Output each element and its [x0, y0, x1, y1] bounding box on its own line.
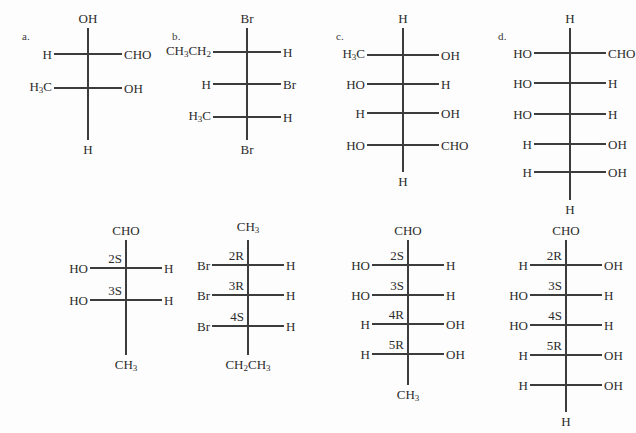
stereocenter-descriptor: 3R	[229, 279, 246, 292]
substituent-right: H	[283, 46, 292, 59]
terminal-group-top: CH3	[237, 220, 260, 237]
stereocenter-descriptor: 2S	[390, 249, 406, 262]
stereocenter-descriptor: 5R	[547, 339, 564, 352]
substituent-right: CHO	[124, 48, 151, 61]
vertical-backbone-bond	[407, 240, 409, 385]
terminal-group-top: Br	[241, 12, 254, 25]
substituent-left: H	[356, 107, 365, 120]
horizontal-bond-right	[566, 384, 602, 386]
substituent-right: OH	[441, 107, 460, 120]
stereocenter-descriptor: 4R	[389, 308, 406, 321]
stereocenter-descriptor: 3S	[108, 284, 124, 297]
horizontal-bond-right	[248, 294, 284, 296]
horizontal-bond-left	[530, 294, 566, 296]
horizontal-bond-left	[530, 354, 566, 356]
substituent-right: OH	[604, 349, 623, 362]
horizontal-bond-right	[408, 353, 444, 355]
horizontal-bond-left	[54, 53, 88, 55]
horizontal-bond-right	[570, 113, 606, 115]
horizontal-bond-left	[212, 294, 248, 296]
horizontal-bond-left	[530, 384, 566, 386]
horizontal-bond-right	[403, 144, 439, 146]
horizontal-bond-right	[88, 87, 122, 89]
horizontal-bond-left	[213, 83, 247, 85]
substituent-left: H	[43, 48, 52, 61]
horizontal-bond-left	[367, 112, 403, 114]
substituent-left: HO	[346, 78, 365, 91]
substituent-left: HO	[69, 294, 88, 307]
substituent-right: OH	[446, 318, 465, 331]
substituent-left: H	[519, 259, 528, 272]
horizontal-bond-left	[534, 143, 570, 145]
substituent-left: H	[523, 138, 532, 151]
horizontal-bond-left	[534, 113, 570, 115]
vertical-backbone-bond	[125, 240, 127, 355]
structure-letter-label: b.	[172, 30, 181, 42]
stereocenter-descriptor: 2R	[547, 249, 564, 262]
horizontal-bond-left	[534, 52, 570, 54]
horizontal-bond-left	[530, 264, 566, 266]
horizontal-bond-right	[248, 264, 284, 266]
stereocenter-descriptor: 4S	[548, 309, 564, 322]
horizontal-bond-left	[530, 324, 566, 326]
stereocenter-descriptor: 2S	[108, 252, 124, 265]
terminal-group-bottom: H	[83, 143, 92, 156]
horizontal-bond-left	[90, 267, 126, 269]
substituent-right: H	[283, 111, 292, 124]
horizontal-bond-right	[403, 54, 439, 56]
substituent-left: Br	[197, 320, 210, 333]
substituent-right: H	[608, 108, 617, 121]
horizontal-bond-left	[372, 353, 408, 355]
horizontal-bond-left	[367, 54, 403, 56]
horizontal-bond-right	[566, 354, 602, 356]
horizontal-bond-right	[88, 53, 122, 55]
structure-letter-label: a.	[22, 30, 30, 42]
substituent-right: OH	[441, 49, 460, 62]
substituent-left: H3C	[342, 47, 365, 64]
horizontal-bond-right	[570, 143, 606, 145]
horizontal-bond-left	[367, 144, 403, 146]
stereocenter-descriptor: 2R	[229, 249, 246, 262]
substituent-left: HO	[346, 139, 365, 152]
vertical-backbone-bond	[247, 240, 249, 355]
substituent-left: HO	[509, 319, 528, 332]
substituent-left: HO	[351, 259, 370, 272]
horizontal-bond-left	[367, 83, 403, 85]
substituent-right: OH	[608, 166, 627, 179]
substituent-right: OH	[446, 348, 465, 361]
substituent-left: HO	[513, 47, 532, 60]
vertical-backbone-bond	[402, 28, 404, 172]
horizontal-bond-left	[372, 264, 408, 266]
horizontal-bond-right	[408, 323, 444, 325]
stereocenter-descriptor: 4S	[230, 310, 246, 323]
horizontal-bond-right	[403, 112, 439, 114]
substituent-right: H	[286, 320, 295, 333]
substituent-left: H	[519, 349, 528, 362]
substituent-right: H	[604, 289, 613, 302]
horizontal-bond-right	[408, 294, 444, 296]
substituent-right: CHO	[441, 139, 468, 152]
stereocenter-descriptor: 3S	[548, 279, 564, 292]
substituent-right: H	[441, 78, 450, 91]
horizontal-bond-left	[534, 82, 570, 84]
substituent-right: OH	[124, 82, 143, 95]
horizontal-bond-left	[212, 264, 248, 266]
substituent-right: OH	[604, 259, 623, 272]
substituent-right: OH	[604, 379, 623, 392]
terminal-group-bottom: Br	[241, 143, 254, 156]
vertical-backbone-bond	[87, 28, 89, 140]
substituent-left: HO	[69, 262, 88, 275]
substituent-right: H	[164, 262, 173, 275]
substituent-left: HO	[513, 77, 532, 90]
terminal-group-top: H	[398, 12, 407, 25]
horizontal-bond-right	[247, 83, 281, 85]
horizontal-bond-right	[570, 52, 606, 54]
horizontal-bond-right	[247, 116, 281, 118]
structure-letter-label: c.	[336, 30, 344, 42]
horizontal-bond-left	[90, 299, 126, 301]
substituent-left: H3C	[188, 109, 211, 126]
substituent-right: H	[446, 289, 455, 302]
horizontal-bond-right	[248, 325, 284, 327]
substituent-right: H	[446, 259, 455, 272]
horizontal-bond-right	[247, 51, 281, 53]
